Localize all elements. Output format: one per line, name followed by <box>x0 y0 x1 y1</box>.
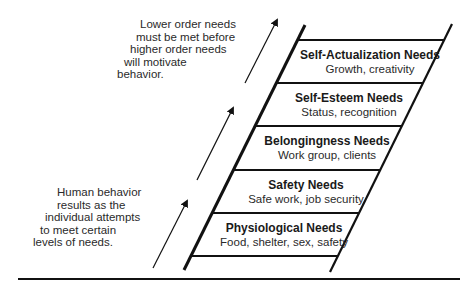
level-description: Status, recognition <box>264 105 434 119</box>
level-physiological: Physiological Needs Food, shelter, sex, … <box>199 221 369 249</box>
level-title: Belongingness Needs <box>242 134 412 148</box>
needs-ladder-diagram: Lower order needs must be met before hig… <box>0 0 471 287</box>
level-description: Safe work, job security <box>221 192 391 206</box>
level-belongingness: Belongingness Needs Work group, clients <box>242 134 412 162</box>
level-description: Work group, clients <box>242 148 412 162</box>
level-title: Physiological Needs <box>199 221 369 235</box>
annotation-line: results as the <box>57 199 200 212</box>
level-self-actualization: Self-Actualization Needs Growth, creativ… <box>285 48 455 76</box>
level-title: Safety Needs <box>221 178 391 192</box>
arrow-up-icon <box>197 108 233 180</box>
annotation-line: to meet certain <box>40 224 200 237</box>
annotation-line: Human behavior <box>57 186 200 199</box>
annotation-line: individual attempts <box>45 211 200 224</box>
annotation-line: will motivate <box>124 56 240 69</box>
bottom-annotation: Human behavior results as the individual… <box>0 186 200 249</box>
level-description: Food, shelter, sex, safety <box>199 235 369 249</box>
annotation-line: must be met before <box>136 31 240 44</box>
level-safety: Safety Needs Safe work, job security <box>221 178 391 206</box>
top-annotation: Lower order needs must be met before hig… <box>0 18 240 81</box>
level-description: Growth, creativity <box>285 62 455 76</box>
arrow-up-icon <box>245 20 277 83</box>
level-title: Self-Actualization Needs <box>285 48 455 62</box>
annotation-line: Lower order needs <box>140 18 240 31</box>
annotation-line: behavior. <box>117 68 240 81</box>
annotation-line: higher order needs <box>130 43 240 56</box>
level-self-esteem: Self-Esteem Needs Status, recognition <box>264 91 434 119</box>
level-title: Self-Esteem Needs <box>264 91 434 105</box>
annotation-line: levels of needs. <box>33 236 200 249</box>
